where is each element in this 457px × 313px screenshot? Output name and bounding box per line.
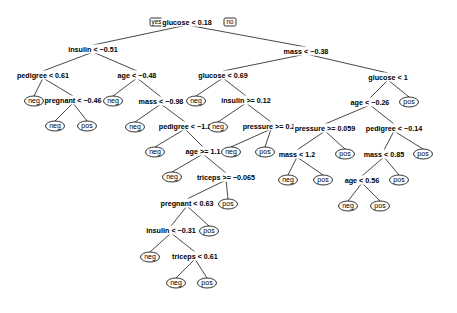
tree-edge [135,104,161,122]
tree-edge [172,154,203,172]
leaf-class: pos [339,150,351,158]
no-label-text: no [226,18,234,25]
tree-edge [297,131,325,150]
leaf-class: neg [107,97,119,105]
split-node: pressure >= 0.21 [242,122,301,131]
yes-label: yes [150,18,163,26]
tree-edge [34,78,43,96]
split-node: age >= 1.1 [185,147,222,156]
tree-edge [246,103,271,122]
split-node: mass < 1.2 [278,150,317,159]
split-node: insulin >= 0.12 [220,96,272,105]
tree-edge [362,183,380,201]
leaf-node-neg: neg [25,96,44,106]
leaf-node-neg: neg [126,122,145,132]
leaf-class: neg [129,123,141,131]
split-node: age < 0.56 [344,176,381,185]
tree-edge [113,78,137,96]
tree-edge [150,233,171,252]
split-condition: mass < 0.85 [364,150,405,159]
tree-edge [171,233,195,252]
split-node: mass < −0.98 [138,97,185,106]
leaf-node-pos: pos [390,175,409,185]
split-node: insulin < −0.51 [67,45,119,54]
tree-edge [176,259,195,278]
yes-label-text: yes [152,18,162,26]
split-condition: pressure >= 0.21 [243,122,300,131]
tree-edge [297,157,323,175]
leaf-class: neg [212,123,224,131]
tree-edge [93,25,187,45]
split-node: glucose < 0.69 [197,71,248,80]
tree-edge [187,25,306,47]
leaf-class: pos [222,200,234,208]
split-condition: pregnant < −0.46 [44,96,101,105]
tree-nodes: glucose < 0.18insulin < −0.51mass < −0.3… [16,18,433,289]
split-condition: pressure >= 0.059 [295,124,356,133]
split-condition: triceps < 0.61 [172,252,218,261]
tree-edge [231,129,271,147]
tree-edge [348,183,362,201]
leaf-class: pos [417,150,429,158]
decision-tree: yes no glucose < 0.18insulin < −0.51mass… [0,0,457,313]
tree-edge [185,129,203,147]
leaf-node-neg: neg [279,175,298,185]
leaf-node-neg: neg [141,252,160,262]
split-node: pedigree < −0.14 [365,124,423,133]
split-node: pregnant < −0.46 [43,96,102,105]
split-condition: glucose < 0.18 [162,18,211,27]
tree-edge [223,54,306,71]
split-condition: mass < −0.38 [284,47,329,56]
tree-edge [394,131,423,149]
tree-edge [155,129,185,147]
leaf-class: pos [374,202,386,210]
tree-edge [171,206,187,226]
split-condition: mass < −0.98 [139,97,184,106]
leaf-class: pos [203,227,215,235]
leaf-node-neg: neg [104,96,123,106]
leaf-class: neg [190,97,202,105]
leaf-node-pos: pos [256,147,275,157]
split-condition: insulin < −0.31 [146,226,196,235]
split-node: insulin < −0.31 [145,226,197,235]
leaf-node-neg: neg [146,147,165,157]
leaf-node-pos: pos [219,199,238,209]
split-node: pedigree < −1.2 [158,122,212,131]
leaf-node-neg: neg [209,122,228,132]
split-condition: pedigree < −0.14 [366,124,422,133]
no-label: no [224,18,236,26]
tree-edge [137,78,161,97]
leaf-node-pos: pos [314,175,333,185]
tree-edge [384,157,399,175]
split-condition: glucose < 1 [368,73,407,82]
leaf-node-pos: pos [336,149,355,159]
leaf-node-pos: pos [414,149,433,159]
tree-edge [370,105,394,124]
split-condition: pregnant < 0.63 [161,199,214,208]
tree-edge [195,259,207,278]
split-condition: age < 0.56 [345,176,380,185]
leaf-class: neg [170,279,182,287]
split-condition: age < −0.26 [351,98,390,107]
leaf-class: neg [342,202,354,210]
tree-edge [196,78,223,96]
split-condition: insulin >= 0.12 [221,96,271,105]
leaf-node-neg: neg [167,278,186,288]
leaf-node-pos: pos [198,278,217,288]
tree-edge [306,54,388,73]
tree-edge [187,206,209,226]
leaf-node-neg: neg [163,172,182,182]
split-condition: glucose < 0.69 [198,71,247,80]
leaf-node-neg: neg [222,147,241,157]
split-node: age < −0.48 [117,71,158,80]
leaf-node-pos: pos [200,226,219,236]
split-condition: pedigree < 0.61 [17,71,69,80]
leaf-node-pos: pos [400,97,419,107]
leaf-class: neg [49,122,61,130]
tree-edge [223,78,246,96]
leaf-node-pos: pos [78,121,97,131]
split-condition: mass < 1.2 [279,150,316,159]
leaf-class: neg [225,148,237,156]
split-condition: pedigree < −1.2 [159,122,211,131]
tree-edge [325,131,345,149]
